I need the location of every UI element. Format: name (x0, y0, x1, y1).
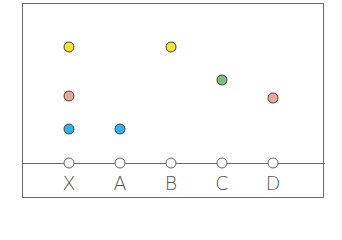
open-node-x (64, 158, 75, 169)
yellow-dot-x (64, 42, 75, 53)
pink-dot-d (268, 93, 279, 104)
open-node-d (268, 158, 279, 169)
open-node-c (217, 158, 228, 169)
column-label-d: D (258, 172, 288, 194)
column-label-b: B (156, 172, 186, 194)
green-dot-c (217, 75, 228, 86)
yellow-dot-b (166, 42, 177, 53)
blue-dot-a (115, 124, 126, 135)
column-label-c: C (207, 172, 237, 194)
blue-dot-x (64, 124, 75, 135)
column-label-a: A (105, 172, 135, 194)
open-node-a (115, 158, 126, 169)
column-label-x: X (54, 172, 84, 194)
pink-dot-x (64, 91, 75, 102)
open-node-b (166, 158, 177, 169)
